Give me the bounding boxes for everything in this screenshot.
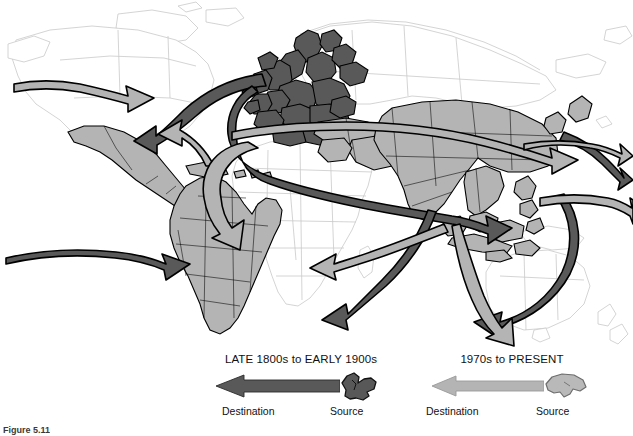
legend-historical-row [196, 370, 406, 404]
flow-arrow-europe-to-south-america [6, 250, 190, 280]
legend-modern-title: 1970s to PRESENT [412, 352, 612, 366]
figure-caption: Figure 5.11 [3, 425, 50, 436]
legend-modern-captions: Destination Source [412, 405, 612, 421]
flow-arrow-east-asia-to-pacific-south [540, 195, 633, 224]
legend-historical-title: LATE 1800s to EARLY 1900s [196, 352, 406, 366]
legend-modern: 1970s to PRESENT Destination Source [412, 352, 612, 421]
legend-historical-captions: Destination Source [196, 405, 406, 421]
migration-map-figure: .faint { fill:#ffffff; stroke:#c9c9c9; s… [0, 0, 633, 436]
asia-shape-icon [540, 370, 590, 402]
legend-modern-arrow [426, 374, 544, 398]
europe-shape-icon [336, 370, 382, 402]
legend-modern-source-label: Source [536, 405, 569, 417]
legend-modern-destination-label: Destination [426, 405, 479, 417]
legend-historical: LATE 1800s to EARLY 1900s Destination So… [196, 352, 406, 421]
legend-historical-destination-label: Destination [222, 405, 275, 417]
legend-historical-source-label: Source [330, 405, 363, 417]
legend-modern-row [412, 370, 612, 404]
legend-historical-arrow [210, 374, 340, 398]
map-legend: LATE 1800s to EARLY 1900s Destination So… [0, 352, 633, 428]
